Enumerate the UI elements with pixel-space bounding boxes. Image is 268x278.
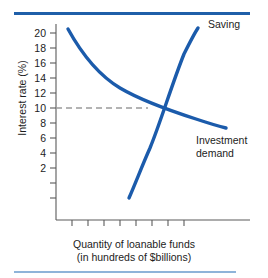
x-axis-ticks (72, 220, 184, 226)
y-tick-label-18: 18 (34, 42, 46, 54)
chart-plot-area: 20 18 16 14 12 10 8 6 4 2 100 200 300 40… (0, 14, 268, 230)
y-tick-label-20: 20 (34, 27, 46, 39)
saving-curve (129, 28, 198, 198)
x-axis-title-line1: Quantity of loanable funds (24, 238, 244, 251)
x-axis-title: Quantity of loanable funds (in hundreds … (24, 238, 244, 264)
y-tick-label-6: 6 (40, 132, 46, 144)
investment-demand-label-line1: Investment (196, 134, 247, 146)
y-tick-label-12: 12 (34, 87, 46, 99)
x-axis-title-line2: (in hundreds of $billions) (24, 251, 244, 264)
y-tick-label-8: 8 (40, 117, 46, 129)
x-tick-label-800: 800 (175, 228, 193, 230)
investment-demand-curve (68, 29, 226, 128)
y-tick-label-14: 14 (34, 72, 46, 84)
saving-curve-label: Saving (208, 18, 240, 30)
loanable-funds-chart-figure: 20 18 16 14 12 10 8 6 4 2 100 200 300 40… (0, 0, 268, 278)
bottom-rule-divider (14, 271, 236, 273)
y-tick-label-4: 4 (40, 147, 46, 159)
investment-demand-label-line2: demand (196, 147, 234, 159)
y-axis-title: Interest rate (%) (16, 28, 28, 168)
y-tick-label-16: 16 (34, 57, 46, 69)
y-tick-label-10: 10 (34, 102, 46, 114)
y-axis-ticks (50, 33, 56, 198)
y-tick-label-2: 2 (40, 162, 46, 174)
